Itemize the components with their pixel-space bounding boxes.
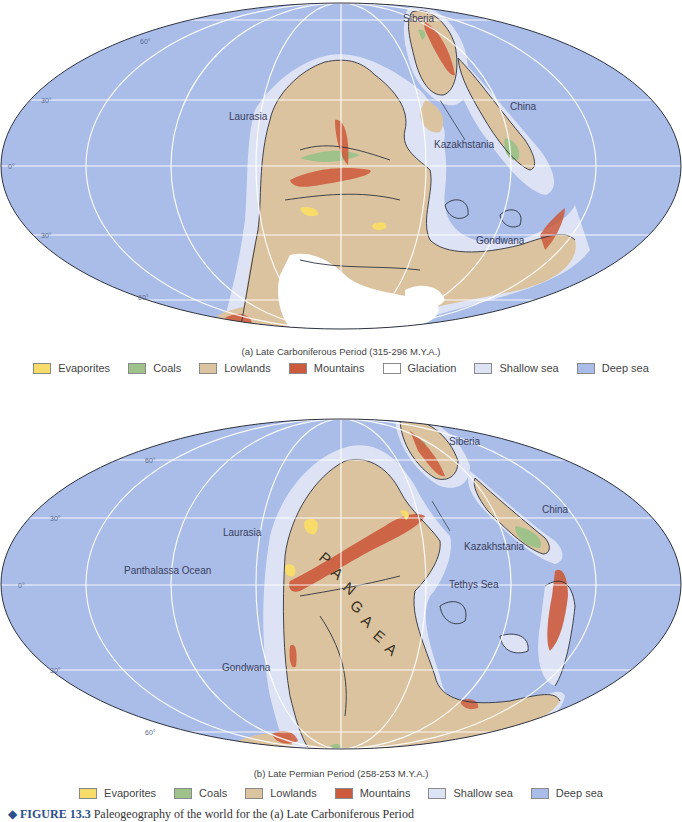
figure-number: FIGURE 13.3 — [20, 807, 91, 821]
map-a-svg: 60° 30° 0° 30° 60° Laurasia Siberia Chin… — [0, 0, 682, 332]
lat-label: 30° — [41, 97, 52, 104]
legend-a: EvaporitesCoalsLowlandsMountainsGlaciati… — [0, 362, 682, 374]
figure-caption-text: Paleogeography of the world for the (a) … — [94, 807, 414, 821]
label-kazakhstania: Kazakhstania — [464, 541, 524, 552]
legend-item-deep-sea: Deep sea — [531, 787, 603, 799]
lat-label: 60° — [140, 38, 151, 45]
legend-item-coals: Coals — [174, 787, 227, 799]
legend-label: Evaporites — [58, 362, 110, 374]
lat-label: 0° — [18, 582, 25, 589]
legend-label: Shallow sea — [499, 362, 558, 374]
map-late-permian: 60° 30° 0° 30° 60° Laurasia Panthalassa … — [0, 416, 682, 758]
swatch-deep-sea — [531, 788, 549, 799]
legend-item-evaporites: Evaporites — [79, 787, 156, 799]
label-laurasia: Laurasia — [223, 527, 262, 538]
lat-label: 30° — [41, 232, 52, 239]
swatch-deep-sea — [577, 363, 595, 374]
swatch-coals — [174, 788, 192, 799]
legend-label: Evaporites — [104, 787, 156, 799]
legend-label: Lowlands — [224, 362, 270, 374]
swatch-shallow-sea — [428, 788, 446, 799]
label-kazakhstania: Kazakhstania — [434, 139, 494, 150]
legend-label: Deep sea — [556, 787, 603, 799]
swatch-glaciation — [383, 363, 401, 374]
label-tethys: Tethys Sea — [449, 579, 499, 590]
caption-a: (a) Late Carboniferous Period (315-296 M… — [0, 346, 682, 357]
swatch-mountains — [289, 363, 307, 374]
legend-item-mountains: Mountains — [335, 787, 411, 799]
map-late-carboniferous: 60° 30° 0° 30° 60° Laurasia Siberia Chin… — [0, 0, 682, 332]
swatch-lowlands — [245, 788, 263, 799]
lat-label: 60° — [145, 457, 156, 464]
lat-label: 60° — [145, 729, 156, 736]
map-b-svg: 60° 30° 0° 30° 60° Laurasia Panthalassa … — [0, 416, 682, 758]
legend-item-shallow-sea: Shallow sea — [474, 362, 558, 374]
label-china: China — [542, 504, 569, 515]
lat-label: 60° — [138, 294, 149, 301]
legend-item-mountains: Mountains — [289, 362, 365, 374]
legend-item-shallow-sea: Shallow sea — [428, 787, 512, 799]
caption-b: (b) Late Permian Period (258-253 M.Y.A.) — [0, 768, 682, 779]
legend-b: EvaporitesCoalsLowlandsMountainsShallow … — [0, 787, 682, 799]
label-gondwana: Gondwana — [222, 662, 271, 673]
legend-label: Glaciation — [408, 362, 457, 374]
legend-item-lowlands: Lowlands — [199, 362, 270, 374]
legend-item-evaporites: Evaporites — [33, 362, 110, 374]
swatch-coals — [128, 363, 146, 374]
legend-label: Mountains — [360, 787, 411, 799]
label-gondwana: Gondwana — [476, 235, 525, 246]
lat-label: 30° — [50, 667, 61, 674]
label-panthalassa: Panthalassa Ocean — [124, 565, 211, 576]
legend-item-coals: Coals — [128, 362, 181, 374]
legend-label: Lowlands — [270, 787, 316, 799]
legend-item-deep-sea: Deep sea — [577, 362, 649, 374]
triangle-icon: ◆ — [8, 807, 17, 821]
legend-label: Mountains — [314, 362, 365, 374]
legend-label: Shallow sea — [453, 787, 512, 799]
legend-item-lowlands: Lowlands — [245, 787, 316, 799]
legend-label: Coals — [153, 362, 181, 374]
swatch-evaporites — [33, 363, 51, 374]
lat-label: 0° — [8, 163, 15, 170]
label-china: China — [510, 101, 537, 112]
swatch-mountains — [335, 788, 353, 799]
lat-label: 30° — [50, 515, 61, 522]
label-laurasia: Laurasia — [229, 111, 268, 122]
legend-item-glaciation: Glaciation — [383, 362, 457, 374]
legend-label: Deep sea — [602, 362, 649, 374]
swatch-lowlands — [199, 363, 217, 374]
swatch-shallow-sea — [474, 363, 492, 374]
label-siberia: Siberia — [403, 13, 435, 24]
swatch-evaporites — [79, 788, 97, 799]
figure-caption: ◆ FIGURE 13.3 Paleogeography of the worl… — [8, 807, 414, 822]
legend-label: Coals — [199, 787, 227, 799]
label-siberia: Siberia — [449, 436, 481, 447]
